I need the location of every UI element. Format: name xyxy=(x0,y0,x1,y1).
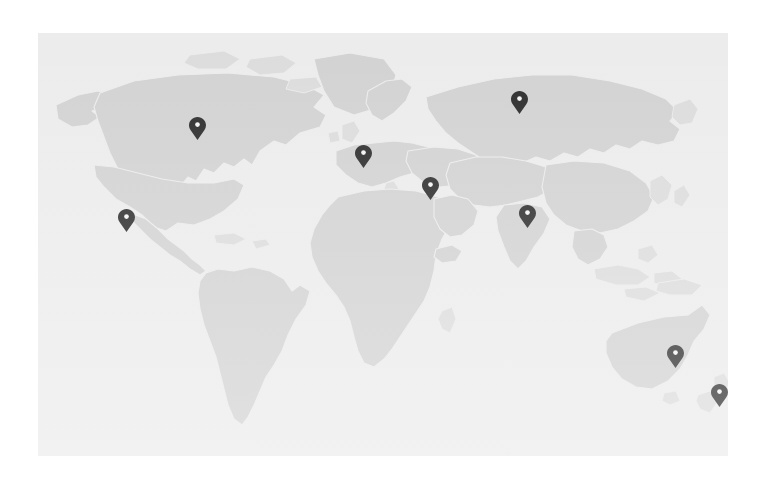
marker-russia[interactable] xyxy=(511,91,528,114)
marker-western-europe[interactable] xyxy=(355,145,372,168)
world-map-graphic xyxy=(38,33,728,456)
continent-south-america xyxy=(198,267,310,425)
marker-north-america[interactable] xyxy=(189,117,206,140)
world-map-panel[interactable] xyxy=(38,33,728,456)
marker-india[interactable] xyxy=(519,205,536,228)
marker-australia[interactable] xyxy=(667,345,684,368)
continent-asia xyxy=(426,75,698,301)
marker-mexico[interactable] xyxy=(118,209,135,232)
page-root xyxy=(0,0,762,486)
marker-middle-east[interactable] xyxy=(422,177,439,200)
marker-new-zealand[interactable] xyxy=(711,384,728,407)
